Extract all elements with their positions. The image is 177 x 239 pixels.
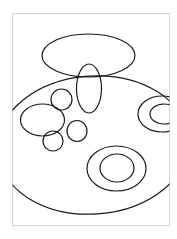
drawing-canvas	[0, 0, 177, 239]
page-frame	[13, 14, 170, 226]
